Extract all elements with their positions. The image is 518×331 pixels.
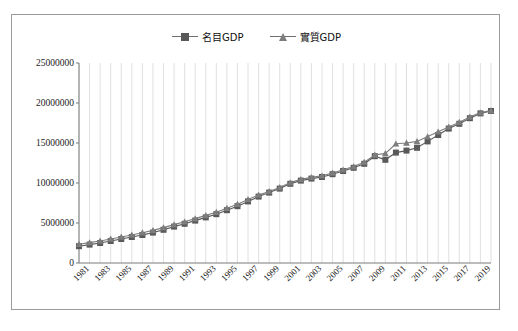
y-tick-label: 5000000 (41, 218, 75, 228)
x-tick-label: 1997 (240, 263, 260, 283)
plot-area: 0500000010000000150000002000000025000000… (12, 15, 501, 311)
y-axis-tick-labels: 0500000010000000150000002000000025000000 (36, 58, 79, 268)
x-tick-label: 2003 (304, 263, 324, 283)
x-tick-label: 2007 (346, 263, 366, 283)
y-tick-label: 0 (69, 258, 74, 268)
x-tick-label: 2015 (430, 263, 450, 283)
y-tick-label: 10000000 (36, 178, 74, 188)
x-tick-label: 2013 (409, 263, 429, 283)
x-tick-label: 1999 (261, 263, 281, 283)
x-tick-label: 2011 (388, 263, 408, 283)
x-tick-label: 1993 (198, 263, 218, 283)
x-axis-tick-labels: 1981198319851987198919911993199519971999… (71, 263, 493, 283)
y-tick-label: 15000000 (36, 138, 74, 148)
x-tick-label: 1985 (113, 263, 133, 283)
y-tick-label: 20000000 (36, 98, 74, 108)
x-tick-label: 1995 (219, 263, 239, 283)
series-nominal-gdp (76, 108, 494, 249)
x-tick-label: 2019 (473, 263, 493, 283)
series-real-gdp (76, 107, 495, 247)
x-tick-label: 2017 (451, 263, 471, 283)
data-series-layer (76, 107, 495, 249)
x-tick-label: 1991 (177, 263, 197, 283)
x-tick-label: 1989 (156, 263, 176, 283)
x-tick-label: 1981 (71, 263, 91, 283)
x-tick-label: 1983 (92, 263, 112, 283)
x-tick-label: 2005 (325, 263, 345, 283)
line-chart: 0500000010000000150000002000000025000000… (12, 15, 501, 311)
x-tick-label: 2009 (367, 263, 387, 283)
y-tick-label: 25000000 (36, 58, 74, 68)
x-tick-label: 2001 (282, 263, 302, 283)
x-tick-label: 1987 (135, 263, 155, 283)
chart-frame: 名目GDP 實質GDP 0500000010000000150000002000… (11, 14, 500, 310)
